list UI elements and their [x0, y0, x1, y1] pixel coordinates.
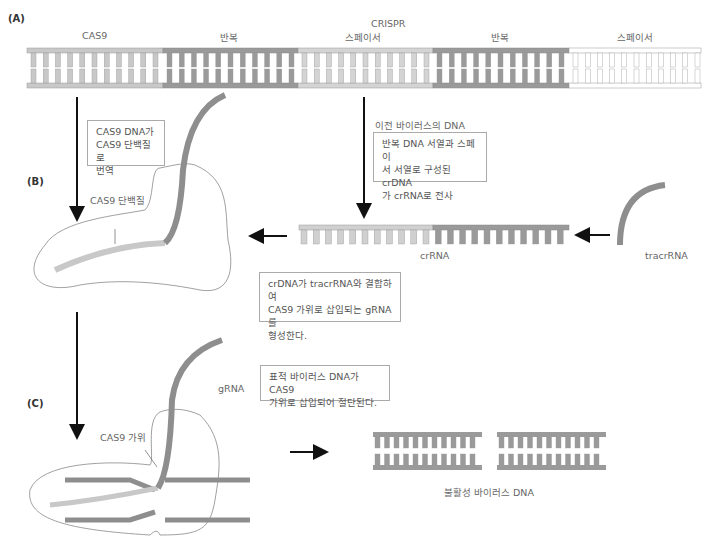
crrna-strand — [299, 225, 569, 244]
binding-note: crDNA가 tracrRNA와 결합하여CAS9 가위로 삽입되는 gRNA를… — [259, 272, 401, 322]
cas9-protein-label: CAS9 단백질 — [90, 193, 145, 207]
segment-repeat-1: 반복 — [220, 30, 238, 44]
segment-cas9: CAS9 — [82, 30, 107, 41]
segment-repeat-2: 반복 — [491, 30, 509, 44]
crispr-title: CRISPR — [371, 18, 405, 29]
panel-label-a: (A) — [8, 13, 25, 24]
cas9-scissors-label: CAS9 가위 — [100, 430, 146, 444]
panel-label-b: (B) — [27, 176, 44, 187]
tracrrna-label: tracrRNA — [645, 250, 688, 261]
tracrrna-strand — [620, 185, 665, 245]
cleavage-note: 표적 바이러스 DNA가 CAS9가위로 삽입되어 절단된다. — [260, 365, 390, 401]
translation-note: CAS9 DNA가CAS9 단백질로번역 — [87, 120, 165, 166]
segment-spacer-2: 스페이서 — [617, 30, 653, 44]
inactive-viral-dna-label: 불활성 바이러스 DNA — [444, 485, 534, 499]
prior-virus-dna-label: 이전 바이러스의 DNA — [375, 118, 465, 132]
panel-label-c: (C) — [27, 398, 43, 409]
inactive-viral-dna — [373, 432, 606, 470]
crrna-label: crRNA — [420, 250, 449, 261]
crispr-dna-strand — [27, 48, 701, 88]
segment-spacer-1: 스페이서 — [345, 30, 381, 44]
grna-label: gRNA — [218, 383, 244, 394]
transcription-note: 반복 DNA 서열과 스페이서 서열로 구성된 crDNA가 crRNA로 전사 — [373, 132, 487, 182]
